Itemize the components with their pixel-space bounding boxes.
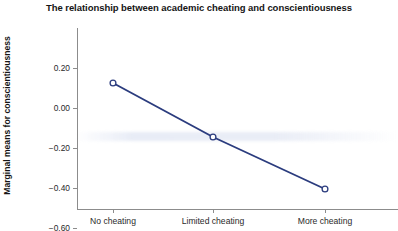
y-tick-label: −0.40 [49, 183, 70, 193]
data-point [110, 80, 116, 86]
data-point [322, 186, 328, 192]
chart-title: The relationship between academic cheati… [0, 2, 398, 13]
series-line [113, 83, 325, 189]
y-tick-label: 0.00 [54, 103, 70, 113]
data-series [77, 20, 398, 215]
y-tick-mark [73, 228, 77, 229]
data-point [210, 134, 216, 140]
chart-figure: The relationship between academic cheati… [0, 0, 398, 231]
y-tick-label: −0.60 [49, 223, 70, 231]
y-tick-label: 0.20 [54, 63, 70, 73]
x-tick-label: Limited cheating [182, 216, 245, 226]
plot-area: 0.200.00−0.20−0.40−0.60 No cheatingLimit… [77, 20, 398, 201]
y-tick-label: −0.20 [49, 143, 70, 153]
x-tick-label: More cheating [298, 216, 352, 226]
x-tick-label: No cheating [90, 216, 136, 226]
y-axis-title: Marginal means for conscientiousness [0, 0, 14, 231]
